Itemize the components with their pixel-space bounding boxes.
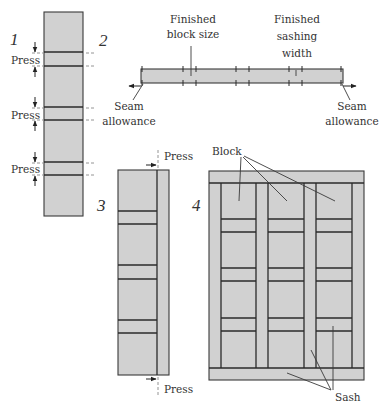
step-2-strip: 2 Finished block size Finished sashing w… (99, 13, 379, 127)
step-1-strip: 1 Press Press Press (10, 12, 96, 216)
press-label: Press (11, 163, 40, 175)
seam-allowance-label: Seam (337, 100, 367, 112)
finished-block-label: block size (167, 28, 219, 40)
finished-sashing-label: sashing (277, 30, 318, 42)
step-4-quilt-top: 4 Block (192, 145, 364, 403)
finished-block-label: Finished (170, 13, 216, 25)
press-label: Press (164, 150, 193, 162)
step-2-number: 2 (99, 31, 108, 50)
seam-allowance-label: allowance (102, 115, 155, 127)
step-3-joined-strip: 3 Press Press (96, 150, 193, 395)
seam-allowance-label: Seam (114, 100, 144, 112)
step-3-number: 3 (96, 196, 106, 215)
finished-sashing-label: width (282, 47, 312, 59)
finished-sashing-label: Finished (274, 13, 320, 25)
step-1-number: 1 (10, 30, 19, 49)
press-label: Press (11, 109, 40, 121)
press-label: Press (11, 54, 40, 66)
seam-allowance-label: allowance (325, 115, 378, 127)
sash-label: Sash (335, 391, 361, 403)
block-label: Block (212, 145, 242, 157)
step-4-number: 4 (192, 196, 201, 215)
press-label: Press (164, 383, 193, 395)
quilt-diagram: 1 Press Press Press (0, 0, 379, 410)
